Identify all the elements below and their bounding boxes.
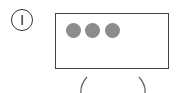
right-arc (139, 77, 145, 93)
left-arc (81, 77, 87, 93)
stand-arcs (0, 0, 183, 93)
